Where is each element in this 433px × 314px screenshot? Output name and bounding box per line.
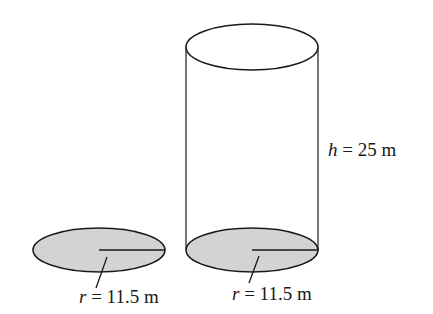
height-label: h = 25 m bbox=[328, 139, 396, 160]
base-circle bbox=[33, 228, 165, 288]
cylinder-radius-label: r = 11.5 m bbox=[232, 283, 312, 304]
cylinder-top-base bbox=[186, 24, 318, 70]
cylinder bbox=[186, 24, 318, 283]
diagram-canvas: r = 11.5 m r = 11.5 m h = 25 m bbox=[0, 0, 433, 314]
base-radius-label: r = 11.5 m bbox=[79, 286, 159, 307]
